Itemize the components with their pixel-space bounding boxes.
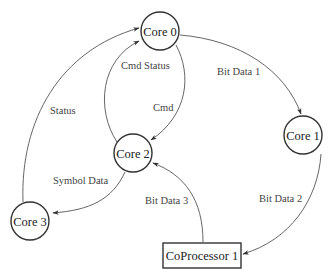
node-core-1-label: Core 1 (286, 129, 320, 143)
edges (23, 28, 321, 254)
node-core-0: Core 0 (141, 12, 179, 50)
label-bit-data-2: Bit Data 2 (259, 193, 302, 204)
edge-cmd-status (104, 41, 139, 142)
label-symbol-data: Symbol Data (53, 175, 108, 186)
label-status: Status (50, 105, 76, 116)
node-core-2-label: Core 2 (116, 147, 150, 161)
label-cmd: Cmd (153, 102, 174, 113)
label-bit-data-3: Bit Data 3 (145, 195, 188, 206)
edge-bit-data-2 (243, 154, 321, 254)
node-core-1: Core 1 (284, 116, 322, 154)
node-core-3-label: Core 3 (13, 215, 47, 229)
node-core-3: Core 3 (11, 202, 49, 240)
node-coprocessor-1-label: CoProcessor 1 (166, 249, 239, 263)
edge-labels: Bit Data 1 Bit Data 2 Bit Data 3 Cmd Cmd… (50, 60, 302, 206)
node-core-0-label: Core 0 (143, 25, 177, 39)
node-core-2: Core 2 (114, 134, 152, 172)
node-coprocessor-1: CoProcessor 1 (163, 243, 241, 268)
label-cmd-status: Cmd Status (121, 60, 170, 71)
label-bit-data-1: Bit Data 1 (217, 66, 260, 77)
system-dataflow-diagram: Bit Data 1 Bit Data 2 Bit Data 3 Cmd Cmd… (0, 0, 330, 275)
